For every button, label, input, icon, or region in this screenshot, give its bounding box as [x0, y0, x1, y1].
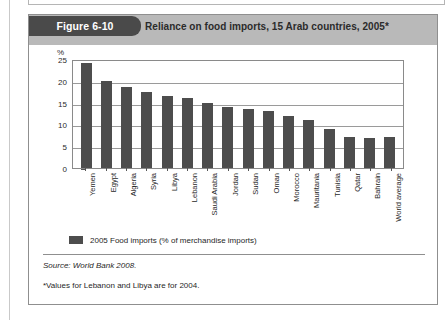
legend-label-food-imports: 2005 Food imports (% of merchandise impo… — [90, 236, 257, 245]
source-text: Source: World Bank 2008. — [43, 261, 136, 270]
x-label-slot: Jordan — [218, 171, 238, 229]
x-label-slot: Lebanon — [177, 171, 197, 229]
bar-qatar — [344, 137, 355, 168]
x-label-slot: Algeria — [116, 171, 136, 229]
y-axis: 0510152025 — [43, 60, 67, 170]
bar-sudan — [243, 109, 254, 168]
y-tick-label: 15 — [58, 99, 67, 108]
x-label-slot: Sudan — [238, 171, 258, 229]
bar-oman — [263, 111, 274, 168]
bar-slot — [76, 61, 96, 168]
x-label-slot: Oman — [258, 171, 278, 229]
x-label-slot: Egypt — [95, 171, 115, 229]
x-label-slot: World average — [381, 171, 401, 229]
x-tick-mark — [248, 167, 249, 171]
y-tick-label: 20 — [58, 77, 67, 86]
bar-mauritania — [303, 120, 314, 168]
bar-slot — [177, 61, 197, 168]
bar-slot — [319, 61, 339, 168]
legend-swatch-food-imports — [69, 236, 83, 244]
bar-saudi-arabia — [202, 103, 213, 168]
x-label-slot: Morocco — [279, 171, 299, 229]
x-label-slot: Saudi Arabia — [197, 171, 217, 229]
bar-slot — [218, 61, 238, 168]
page-edge-strip — [0, 0, 10, 320]
bar-slot — [117, 61, 137, 168]
x-tick-mark — [289, 167, 290, 171]
bar-egypt — [101, 81, 112, 168]
y-tick-label: 25 — [58, 56, 67, 65]
x-tick-mark — [207, 167, 208, 171]
x-label-slot: Bahrain — [360, 171, 380, 229]
bar-world-average — [384, 137, 395, 168]
x-tick-mark — [269, 167, 270, 171]
x-label-slot: Qatar — [340, 171, 360, 229]
footer-divider — [43, 254, 425, 255]
bar-slot — [96, 61, 116, 168]
bar-slot — [299, 61, 319, 168]
bar-slot — [157, 61, 177, 168]
footnote-text: *Values for Lebanon and Libya are for 20… — [43, 281, 199, 290]
figure-header-band: Figure 6-10 Reliance on food imports, 15… — [29, 15, 437, 45]
bar-tunisia — [324, 129, 335, 168]
bar-algeria — [121, 87, 132, 168]
bar-jordan — [222, 107, 233, 168]
bar-slot — [339, 61, 359, 168]
bar-slot — [198, 61, 218, 168]
bar-slot — [238, 61, 258, 168]
chart-area: % 0510152025 YemenEgyptAlgeriaSyriaLibya… — [29, 45, 437, 229]
x-axis-labels: YemenEgyptAlgeriaSyriaLibyaLebanonSaudi … — [72, 171, 404, 229]
x-tick-mark — [330, 167, 331, 171]
y-tick-label: 5 — [63, 143, 67, 152]
x-label-slot: Mauritania — [299, 171, 319, 229]
x-tick-mark — [350, 167, 351, 171]
plot-frame — [72, 60, 404, 169]
x-label-slot: Libya — [157, 171, 177, 229]
x-label-slot: Syria — [136, 171, 156, 229]
x-tick-mark — [309, 167, 310, 171]
y-tick-label: 0 — [63, 165, 67, 174]
x-tick-mark — [146, 167, 147, 171]
bar-lebanon — [182, 98, 193, 168]
y-tick-label: 10 — [58, 121, 67, 130]
bar-syria — [141, 92, 152, 168]
bar-slot — [137, 61, 157, 168]
x-tick-mark — [126, 167, 127, 171]
bar-slot — [380, 61, 400, 168]
bar-slot — [258, 61, 278, 168]
bar-slot — [360, 61, 380, 168]
figure-title: Reliance on food imports, 15 Arab countr… — [145, 21, 389, 32]
x-tick-mark — [391, 167, 392, 171]
page-edge-top-box — [28, 0, 445, 5]
chart-legend: 2005 Food imports (% of merchandise impo… — [29, 231, 437, 249]
x-tick-mark — [370, 167, 371, 171]
x-tick-mark — [167, 167, 168, 171]
figure-container: Figure 6-10 Reliance on food imports, 15… — [28, 14, 438, 305]
x-label-slot: Tunisia — [320, 171, 340, 229]
bar-slot — [279, 61, 299, 168]
bar-series — [73, 61, 403, 168]
x-tick-mark — [106, 167, 107, 171]
x-tick-label: World average — [394, 173, 403, 222]
x-tick-mark — [187, 167, 188, 171]
bar-bahrain — [364, 138, 375, 168]
bar-yemen — [81, 63, 92, 168]
bar-morocco — [283, 116, 294, 168]
x-tick-mark — [228, 167, 229, 171]
bar-libya — [162, 96, 173, 168]
x-tick-mark — [85, 167, 86, 171]
figure-number-tab: Figure 6-10 — [29, 16, 141, 36]
x-label-slot: Yemen — [75, 171, 95, 229]
